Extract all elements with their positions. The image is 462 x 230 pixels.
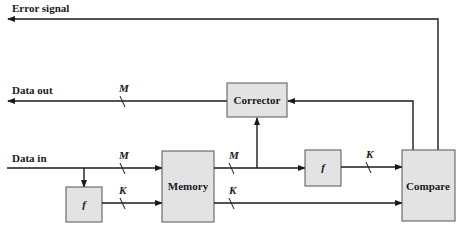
data-in-width: M bbox=[118, 149, 130, 161]
error-correction-diagram: Error signal Data out M Corrector Data i… bbox=[0, 0, 462, 230]
compare-to-corrector-line bbox=[288, 101, 413, 150]
data-out-width: M bbox=[118, 82, 130, 94]
f-to-compare-width: K bbox=[365, 148, 374, 160]
error-signal-label: Error signal bbox=[12, 2, 69, 14]
memory-check-out-width: K bbox=[228, 184, 237, 196]
memory-data-out-width: M bbox=[228, 149, 240, 161]
f-to-memory-width: K bbox=[118, 184, 127, 196]
error-signal-line bbox=[8, 19, 438, 150]
data-in-label: Data in bbox=[12, 152, 47, 164]
data-out-label: Data out bbox=[12, 84, 53, 96]
memory-label: Memory bbox=[168, 180, 209, 192]
compare-label: Compare bbox=[406, 180, 450, 192]
corrector-label: Corrector bbox=[234, 94, 281, 106]
